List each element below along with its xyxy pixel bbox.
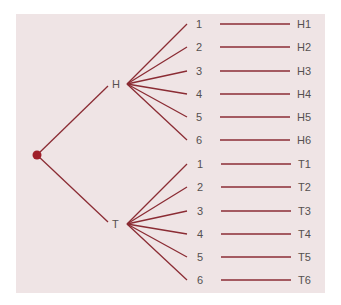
outcome-label-h2: H2: [297, 41, 311, 53]
outcome-label-h3: H3: [297, 65, 311, 77]
t-child-label-6: 6: [197, 274, 203, 286]
t-child-label-4: 4: [197, 228, 203, 240]
t-child-label-5: 5: [197, 251, 203, 263]
outcome-label-h5: H5: [297, 111, 311, 123]
h-child-label-1: 1: [196, 18, 202, 30]
h-child-label-3: 3: [196, 65, 202, 77]
root-node-dot: [33, 151, 42, 160]
outcome-label-t4: T4: [298, 228, 311, 240]
h-child-label-6: 6: [196, 134, 202, 146]
outcome-label-t2: T2: [298, 181, 311, 193]
outcome-label-h4: H4: [297, 88, 311, 100]
node-label-t: T: [112, 218, 119, 230]
outcome-label-h1: H1: [297, 18, 311, 30]
h-child-label-5: 5: [196, 111, 202, 123]
h-child-label-4: 4: [196, 88, 202, 100]
outcome-label-t6: T6: [298, 274, 311, 286]
tree-lines: [0, 0, 341, 305]
outcome-label-t5: T5: [298, 251, 311, 263]
node-label-h: H: [112, 78, 120, 90]
outcome-label-t3: T3: [298, 205, 311, 217]
t-child-label-1: 1: [197, 158, 203, 170]
t-child-label-3: 3: [197, 205, 203, 217]
outcome-label-t1: T1: [298, 158, 311, 170]
t-child-label-2: 2: [197, 181, 203, 193]
outcome-label-h6: H6: [297, 134, 311, 146]
h-child-label-2: 2: [196, 41, 202, 53]
